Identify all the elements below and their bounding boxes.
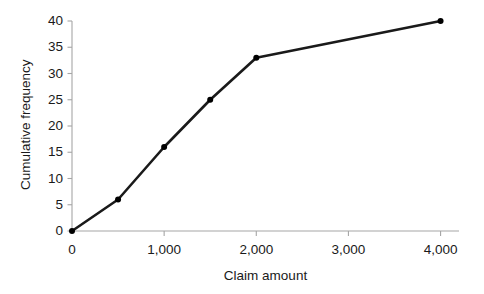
data-point-markers	[69, 18, 444, 234]
cumulative-frequency-chart: 0510152025303540 01,0002,0003,0004,000 C…	[0, 0, 484, 294]
x-tick-label: 4,000	[424, 243, 458, 257]
y-axis	[68, 21, 73, 231]
y-tick-label: 40	[20, 14, 63, 28]
y-tick-label: 0	[20, 224, 63, 238]
x-axis	[72, 231, 459, 236]
x-tick-label: 0	[68, 243, 76, 257]
x-tick-label: 3,000	[332, 243, 366, 257]
x-axis-title: Claim amount	[72, 269, 459, 283]
x-tick-label: 1,000	[147, 243, 181, 257]
y-axis-title: Cumulative frequency	[19, 40, 33, 210]
data-series-line	[72, 21, 441, 231]
x-tick-label: 2,000	[239, 243, 273, 257]
